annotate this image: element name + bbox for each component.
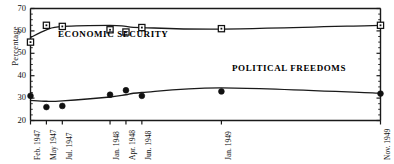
x-axis-tick-label: Apr. 1948 [129,130,137,160]
series-label-economic-security: ECONOMIC SECURITY [58,29,168,39]
x-axis-tick-label: Jul. 1947 [66,132,74,160]
data-point-marker [27,39,33,45]
data-point-marker [219,88,225,94]
y-axis-tick-label: 50 [8,48,26,57]
y-axis-tick-label: 70 [8,4,26,13]
data-point-marker [378,91,384,97]
chart-plot-area [0,0,394,164]
data-point-marker [123,87,129,93]
data-point-marker [377,22,383,28]
series-trend-line-political-freedoms [31,88,381,102]
y-axis-tick-label: 60 [8,26,26,35]
x-axis-tick-label: Feb. 1947 [34,130,42,160]
data-point-marker [43,22,49,28]
data-point-marker [44,104,50,110]
data-point-marker [139,93,145,99]
data-point-marker [28,93,34,99]
data-point-marker [59,103,65,109]
y-axis-tick-label: 20 [8,116,26,125]
x-axis-tick-label: May 1947 [50,129,58,160]
data-point-marker [107,92,113,98]
y-axis-tick-label: 40 [8,71,26,80]
chart-container: Percentage 706050403020 Feb. 1947May 194… [0,0,394,164]
data-point-marker [218,26,224,32]
x-axis-tick-label: Jun. 1948 [145,131,153,160]
x-axis-tick-label: Jan. 1949 [225,131,233,160]
series-label-political-freedoms: POLITICAL FREEDOMS [232,63,346,73]
x-axis-tick-label: Jan. 1948 [113,131,121,160]
y-axis-tick-label: 30 [8,93,26,102]
x-axis-tick-label: Nov. 1949 [384,129,392,160]
